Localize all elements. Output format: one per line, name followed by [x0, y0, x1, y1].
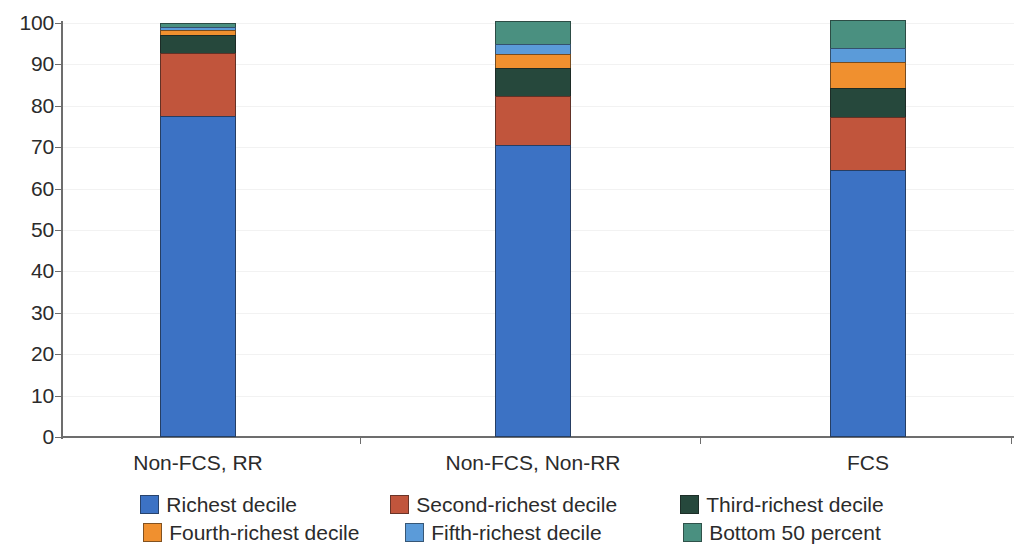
y-axis-tick-label: 50	[8, 219, 54, 240]
legend-item[interactable]: Richest decile	[140, 494, 390, 515]
legend-item[interactable]: Third-richest decile	[680, 494, 883, 515]
legend-item[interactable]: Fourth-richest decile	[143, 522, 405, 543]
bar-fcs	[830, 0, 906, 437]
y-axis-tick-mark	[55, 396, 62, 397]
y-axis-tick-label: 60	[8, 178, 54, 199]
legend-swatch-icon	[390, 495, 409, 514]
bar-segment	[830, 62, 906, 88]
chart-legend: Richest decileSecond-richest decileThird…	[0, 490, 1024, 546]
y-axis-tick-mark	[55, 230, 62, 231]
y-axis-tick-mark	[55, 64, 62, 65]
legend-label: Bottom 50 percent	[709, 522, 881, 543]
legend-swatch-icon	[683, 523, 702, 542]
legend-label: Richest decile	[166, 494, 297, 515]
legend-swatch-icon	[143, 523, 162, 542]
x-axis-label: FCS	[718, 452, 1018, 473]
y-axis-tick-mark	[55, 313, 62, 314]
stacked-bar-chart: 1009080706050403020100 Non-FCS, RRNon-FC…	[0, 0, 1024, 546]
bar-segment	[495, 68, 571, 96]
bar-segment	[830, 170, 906, 437]
legend-swatch-icon	[405, 523, 424, 542]
y-axis-tick: 60	[0, 178, 54, 200]
y-axis-tick: 0	[0, 426, 54, 448]
x-axis-label: Non-FCS, RR	[48, 452, 348, 473]
x-axis-label: Non-FCS, Non-RR	[383, 452, 683, 473]
x-axis-tick-mark	[1011, 437, 1012, 444]
y-axis-tick: 30	[0, 302, 54, 324]
bar-segment	[495, 96, 571, 145]
legend-row-2: Fourth-richest decileFifth-richest decil…	[0, 518, 1024, 546]
x-axis-tick-mark	[360, 437, 361, 444]
y-axis-tick-label: 0	[8, 426, 54, 447]
bar-segment	[495, 21, 571, 44]
y-axis-tick-label: 30	[8, 302, 54, 323]
y-axis-tick-mark	[55, 106, 62, 107]
bar-non-fcs-rr	[160, 0, 236, 437]
y-axis-tick-label: 10	[8, 385, 54, 406]
y-axis-tick-label: 40	[8, 260, 54, 281]
y-axis-tick: 40	[0, 260, 54, 282]
y-axis-tick-mark	[55, 354, 62, 355]
y-axis-tick: 20	[0, 343, 54, 365]
y-axis-tick: 10	[0, 385, 54, 407]
bar-segment	[495, 44, 571, 54]
legend-row-1: Richest decileSecond-richest decileThird…	[0, 490, 1024, 518]
legend-label: Second-richest decile	[416, 494, 617, 515]
bar-segment	[830, 117, 906, 170]
legend-label: Fourth-richest decile	[169, 522, 359, 543]
bar-segment	[830, 88, 906, 117]
legend-label: Third-richest decile	[706, 494, 883, 515]
y-axis-tick: 70	[0, 136, 54, 158]
x-axis-tick-mark	[700, 437, 701, 444]
bar-segment	[495, 54, 571, 68]
y-axis-tick-mark	[55, 437, 62, 438]
legend-swatch-icon	[680, 495, 699, 514]
y-axis-tick-mark	[55, 189, 62, 190]
bar-segment	[830, 48, 906, 62]
legend-label: Fifth-richest decile	[431, 522, 601, 543]
legend-item[interactable]: Second-richest decile	[390, 494, 680, 515]
bar-segment	[160, 53, 236, 116]
y-axis-tick: 50	[0, 219, 54, 241]
bar-segment	[830, 20, 906, 48]
y-axis-tick-mark	[55, 23, 62, 24]
bar-segment	[160, 116, 236, 437]
bar-non-fcs-non-rr	[495, 0, 571, 437]
legend-item[interactable]: Fifth-richest decile	[405, 522, 683, 543]
y-axis-tick: 80	[0, 95, 54, 117]
y-axis-tick: 100	[0, 12, 54, 34]
bar-segment	[495, 145, 571, 437]
y-axis-tick-mark	[55, 271, 62, 272]
legend-swatch-icon	[140, 495, 159, 514]
y-axis-tick-label: 70	[8, 136, 54, 157]
y-axis-tick-label: 80	[8, 95, 54, 116]
y-axis-tick-label: 20	[8, 343, 54, 364]
bar-segment	[160, 35, 236, 53]
y-axis-tick-label: 100	[8, 12, 54, 33]
legend-item[interactable]: Bottom 50 percent	[683, 522, 881, 543]
y-axis-tick-mark	[55, 147, 62, 148]
y-axis-tick-label: 90	[8, 53, 54, 74]
y-axis-tick: 90	[0, 53, 54, 75]
